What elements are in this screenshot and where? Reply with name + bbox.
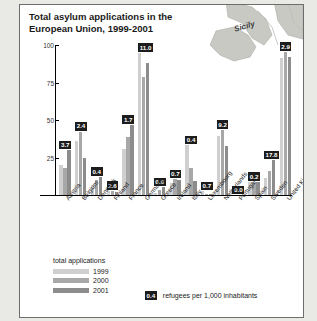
legend-item[interactable]: 2001 <box>53 286 109 294</box>
bar-germany-2001 <box>146 63 149 195</box>
bar-united-kingdom-2000 <box>284 47 287 195</box>
bar-group <box>280 47 292 195</box>
y-axis-tick-label: 25 <box>38 154 54 161</box>
legend: total applications199920002001 <box>53 257 109 296</box>
chart-panel: Total asylum applications in theEuropean… <box>19 4 304 318</box>
legend-refugee-badge: 0.4 <box>144 290 158 301</box>
legend-swatch-2001 <box>53 288 89 293</box>
y-axis-tick-mark <box>55 120 59 121</box>
bar-austria-1999 <box>59 165 62 195</box>
refugee-rate-badge: 3.7 <box>58 140 72 151</box>
refugee-rate-badge: 2.9 <box>279 41 293 52</box>
legend-item[interactable]: 1999 <box>53 267 109 275</box>
legend-refugee-label: refugees per 1,000 inhabitants <box>163 292 258 299</box>
legend-label: 2000 <box>93 277 109 284</box>
legend-label: 1999 <box>93 268 109 275</box>
y-axis-tick-label: 100 <box>38 42 54 49</box>
refugee-rate-badge: 2.4 <box>74 121 88 132</box>
y-axis-tick-label: 75 <box>38 79 54 86</box>
figure-root: Total asylum applications in theEuropean… <box>0 0 317 321</box>
map-label-sicily: Sicily <box>233 19 256 33</box>
bar-united-kingdom-2001 <box>288 57 291 195</box>
refugee-rate-badge: 0.4 <box>184 135 198 146</box>
bar-italy-2000 <box>189 168 192 195</box>
bar-germany-1999 <box>138 52 141 195</box>
legend-swatch-2000 <box>53 278 89 283</box>
plot-area: 2550751003.72.40.42.61.711.00.60.70.40.7… <box>56 45 292 195</box>
bar-sweden-2000 <box>268 171 271 195</box>
refugee-rate-badge: 0.4 <box>90 166 104 177</box>
refugee-rate-badge: 1.7 <box>121 114 135 125</box>
legend-refugee-rate: 0.4refugees per 1,000 inhabitants <box>144 290 257 301</box>
bar-austria-2000 <box>63 168 66 195</box>
refugee-rate-badge: 17.8 <box>263 150 280 161</box>
page-title: Total asylum applications in theEuropean… <box>29 11 209 34</box>
refugee-rate-badge: 0.7 <box>169 169 183 180</box>
y-axis-tick-mark <box>55 83 59 84</box>
legend-item[interactable]: 2000 <box>53 277 109 285</box>
refugee-rate-badge: 11.0 <box>137 42 154 53</box>
legend-swatch-1999 <box>53 269 89 274</box>
bar-united-kingdom-1999 <box>280 58 283 195</box>
y-axis-tick-label: 50 <box>38 117 54 124</box>
bar-group <box>138 52 150 195</box>
bar-germany-2000 <box>142 77 145 195</box>
bar-france-2001 <box>130 124 133 195</box>
refugee-rate-badge: 9.2 <box>216 119 230 130</box>
legend-title: total applications <box>53 257 109 264</box>
y-axis-tick-mark <box>55 45 59 46</box>
legend-label: 2001 <box>93 287 109 294</box>
